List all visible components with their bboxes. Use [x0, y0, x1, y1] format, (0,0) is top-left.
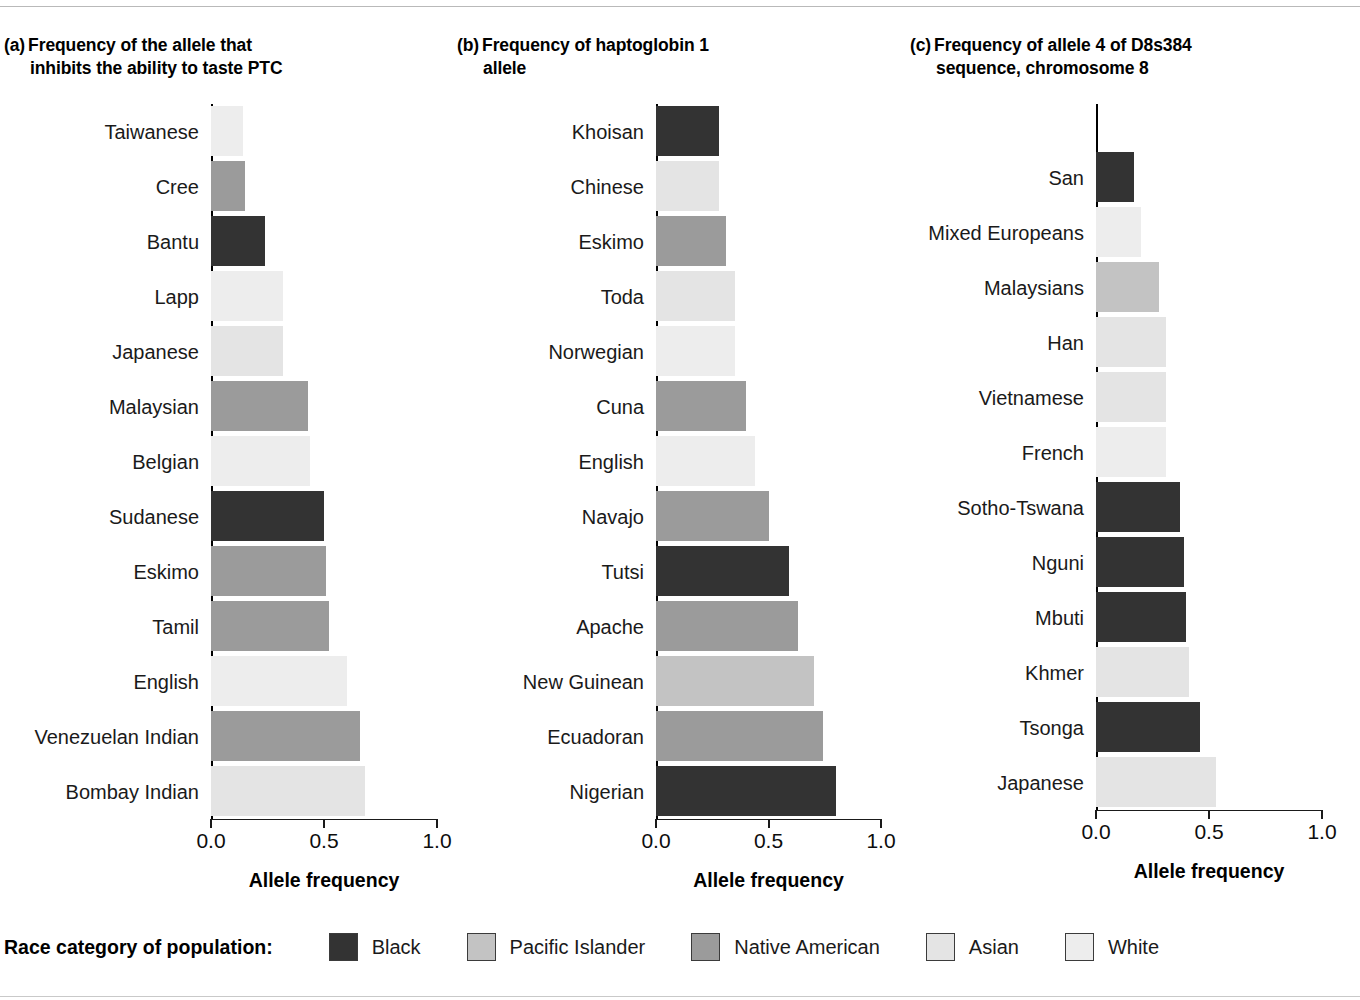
bar-category-label: Khoisan [572, 122, 644, 142]
panel-a: (a)Frequency of the allele that inhibits… [0, 34, 453, 804]
bar-category-label: Mbuti [1035, 608, 1084, 628]
bar [1096, 152, 1134, 202]
legend-swatch-asian [926, 933, 955, 961]
bar-category-label: Eskimo [578, 232, 644, 252]
bar-category-label: Navajo [582, 507, 644, 527]
bar-row: New Guinean [453, 654, 906, 709]
x-axis-tick-label: 0.5 [309, 829, 338, 853]
bar-category-label: Sudanese [109, 507, 199, 527]
bar [1096, 757, 1216, 807]
panel-c-label: (c) [910, 35, 931, 55]
bar-category-label: Toda [601, 287, 644, 307]
bar [211, 436, 310, 486]
bar-category-label: Nigerian [570, 782, 644, 802]
bar-row: Tsonga [906, 700, 1359, 755]
bar [656, 436, 755, 486]
bar-row: Navajo [453, 489, 906, 544]
bar [211, 106, 243, 156]
x-axis-tick [655, 819, 657, 828]
bar-category-label: Cree [156, 177, 199, 197]
bar [656, 491, 769, 541]
bar-category-label: English [578, 452, 644, 472]
figure-page: (a)Frequency of the allele that inhibits… [0, 0, 1360, 1000]
bar [211, 491, 324, 541]
bar-row: Han [906, 315, 1359, 370]
bar-row: Japanese [906, 755, 1359, 810]
bar-row: Lapp [0, 269, 453, 324]
bar-row: Khmer [906, 645, 1359, 700]
bar [656, 711, 823, 761]
panel-b-label: (b) [457, 35, 479, 55]
bar-category-label: Tsonga [1020, 718, 1085, 738]
bar-category-label: Cuna [596, 397, 644, 417]
bar-category-label: Khmer [1025, 663, 1084, 683]
bar-row: Belgian [0, 434, 453, 489]
bar-category-label: French [1022, 443, 1084, 463]
legend-swatch-pacific [467, 933, 496, 961]
bar-row: French [906, 425, 1359, 480]
bar-row: Bombay Indian [0, 764, 453, 819]
x-axis-tick-label: 1.0 [866, 829, 895, 853]
bar-row: Venezuelan Indian [0, 709, 453, 764]
bar [656, 381, 746, 431]
legend-item-black: Black [329, 933, 421, 961]
panel-c-x-title: Allele frequency [1134, 860, 1285, 883]
bar-row: Taiwanese [0, 104, 453, 159]
legend-items: BlackPacific IslanderNative AmericanAsia… [329, 933, 1205, 961]
bar-category-label: Norwegian [548, 342, 644, 362]
bar-category-label: Han [1047, 333, 1084, 353]
panel-b: (b)Frequency of haptoglobin 1 allele Kho… [453, 34, 906, 804]
panel-b-title: (b)Frequency of haptoglobin 1 allele [453, 34, 906, 82]
panel-c-plot: SanMixed EuropeansMalaysiansHanVietnames… [906, 104, 1359, 804]
bar-row: Eskimo [453, 214, 906, 269]
panel-c-title-line2: sequence, chromosome 8 [910, 57, 1353, 80]
bar-row: Malaysians [906, 260, 1359, 315]
bar-row: Sudanese [0, 489, 453, 544]
bar [211, 711, 360, 761]
bar-category-label: New Guinean [523, 672, 644, 692]
bar [211, 546, 326, 596]
legend-label-white: White [1108, 936, 1159, 959]
bar-row: Eskimo [0, 544, 453, 599]
bar [656, 161, 719, 211]
bar-category-label: Tamil [152, 617, 199, 637]
bar-row: Nguni [906, 535, 1359, 590]
x-axis-tick-label: 1.0 [1307, 820, 1336, 844]
bar [1096, 317, 1166, 367]
panel-a-title-line1: Frequency of the allele that [28, 35, 252, 55]
panel-a-bars: TaiwaneseCreeBantuLappJapaneseMalaysianB… [0, 104, 453, 819]
bar-row: English [453, 434, 906, 489]
legend-label-black: Black [372, 936, 421, 959]
bar-row: Vietnamese [906, 370, 1359, 425]
bar [211, 216, 265, 266]
bar-category-label: Chinese [571, 177, 644, 197]
bar-row: Sotho-Tswana [906, 480, 1359, 535]
bar-category-label: Mixed Europeans [928, 223, 1084, 243]
panel-b-x-title: Allele frequency [693, 869, 844, 892]
x-axis-tick-label: 0.5 [1194, 820, 1223, 844]
bar [211, 271, 283, 321]
bar-row: Bantu [0, 214, 453, 269]
x-axis-tick-label: 0.0 [641, 829, 670, 853]
bar [656, 106, 719, 156]
page-top-rule [0, 6, 1360, 7]
bar [211, 326, 283, 376]
bar-category-label: Venezuelan Indian [34, 727, 199, 747]
bar-row: Ecuadoran [453, 709, 906, 764]
x-axis-tick [880, 819, 882, 828]
bar [656, 766, 836, 816]
panel-b-plot: KhoisanChineseEskimoTodaNorwegianCunaEng… [453, 104, 906, 804]
bar-category-label: Japanese [112, 342, 199, 362]
x-axis-tick [1095, 810, 1097, 819]
bar-category-label: San [1048, 168, 1084, 188]
bar-row: San [906, 150, 1359, 205]
legend-item-pacific: Pacific Islander [467, 933, 646, 961]
bar [1096, 647, 1189, 697]
legend-label-asian: Asian [969, 936, 1019, 959]
legend-label-native: Native American [734, 936, 880, 959]
bar-category-label: Bantu [147, 232, 199, 252]
panel-b-title-line1: Frequency of haptoglobin 1 [482, 35, 709, 55]
bar [656, 216, 726, 266]
bar-category-label: Nguni [1032, 553, 1084, 573]
legend-swatch-black [329, 933, 358, 961]
